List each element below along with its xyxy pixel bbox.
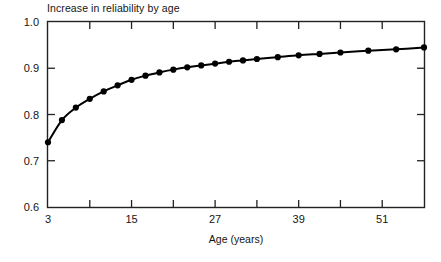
data-point-marker <box>101 88 107 94</box>
data-point-marker <box>337 49 343 55</box>
data-point-marker <box>59 117 65 123</box>
y-tick-label: 0.8 <box>24 109 39 121</box>
x-tick-label: 27 <box>209 213 221 225</box>
reliability-by-age-chart: Increase in reliability by age 0.60.70.8… <box>0 0 441 262</box>
x-axis-title: Age (years) <box>209 233 263 245</box>
data-point-marker <box>316 51 322 57</box>
data-point-marker <box>212 61 218 67</box>
data-point-marker <box>115 82 121 88</box>
data-point-marker <box>365 48 371 54</box>
y-tick-label: 0.7 <box>24 155 39 167</box>
data-point-marker <box>128 77 134 83</box>
plot-area: 0.60.70.80.91.0 315273951 Age (years) <box>0 0 441 262</box>
x-tick-label: 15 <box>125 213 137 225</box>
data-point-marker <box>170 67 176 73</box>
data-point-marker <box>296 52 302 58</box>
data-point-marker <box>275 54 281 60</box>
y-axis-tick-labels: 0.60.70.80.91.0 <box>24 16 39 213</box>
data-point-marker <box>73 104 79 110</box>
data-point-marker <box>156 69 162 75</box>
data-point-marker <box>421 44 427 50</box>
x-axis-tick-labels: 315273951 <box>45 213 388 225</box>
y-tick-label: 0.9 <box>24 62 39 74</box>
x-tick-label: 3 <box>45 213 51 225</box>
data-point-marker <box>87 96 93 102</box>
data-point-marker <box>198 62 204 68</box>
data-point-marker <box>254 56 260 62</box>
data-point-marker <box>45 139 51 145</box>
x-tick-label: 51 <box>376 213 388 225</box>
data-point-marker <box>142 73 148 79</box>
data-point-marker <box>240 57 246 63</box>
data-point-marker <box>184 64 190 70</box>
x-tick-label: 39 <box>293 213 305 225</box>
data-point-marker <box>226 59 232 65</box>
data-point-marker <box>393 46 399 52</box>
y-tick-label: 1.0 <box>24 16 39 28</box>
y-tick-label: 0.6 <box>24 201 39 213</box>
